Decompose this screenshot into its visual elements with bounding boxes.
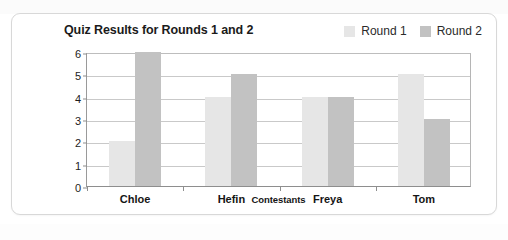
plot-wrapper: Number of Questions Correct 0123456 Chlo…	[12, 14, 496, 214]
bar-chloe-round-1	[109, 141, 135, 186]
x-tick-mark	[280, 186, 281, 191]
y-tick-label: 0	[75, 183, 81, 194]
x-tick-mark	[376, 186, 377, 191]
y-tick-label: 5	[75, 71, 81, 82]
page-top-strip	[0, 0, 508, 14]
y-tick-label: 2	[75, 138, 81, 149]
bar-freya-round-2	[328, 97, 354, 186]
y-tick-label: 6	[75, 49, 81, 60]
plot-area: 0123456 ChloeHefinFreyaTom	[86, 53, 471, 187]
bar-hefin-round-1	[205, 97, 231, 186]
bars-layer	[87, 54, 470, 186]
bar-tom-round-2	[424, 119, 450, 186]
chart-card: Quiz Results for Rounds 1 and 2 Round 1 …	[11, 13, 497, 215]
bar-hefin-round-2	[231, 74, 257, 186]
x-tick-mark	[87, 186, 88, 191]
y-tick-label: 4	[75, 93, 81, 104]
bar-freya-round-1	[302, 97, 328, 186]
bar-tom-round-1	[398, 74, 424, 186]
bar-chloe-round-2	[135, 52, 161, 186]
page-bottom-strip	[0, 224, 508, 240]
x-tick-mark	[183, 186, 184, 191]
y-tick-label: 1	[75, 160, 81, 171]
y-tick-label: 3	[75, 116, 81, 127]
x-axis-title: Contestants	[86, 194, 471, 205]
